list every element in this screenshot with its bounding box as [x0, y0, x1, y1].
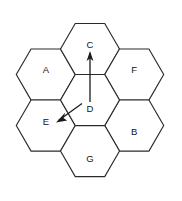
- hex-diagram-canvas: A C F E B G D: [0, 0, 182, 201]
- hex-label-d: D: [87, 103, 94, 114]
- hex-label-g: G: [86, 153, 93, 164]
- hex-label-b: B: [131, 126, 137, 137]
- hex-diagram-svg: A C F E B G D: [0, 0, 182, 201]
- hex-label-f: F: [131, 64, 137, 75]
- hex-label-a: A: [43, 64, 50, 75]
- hex-label-e: E: [43, 116, 49, 127]
- hex-label-c: C: [87, 39, 94, 50]
